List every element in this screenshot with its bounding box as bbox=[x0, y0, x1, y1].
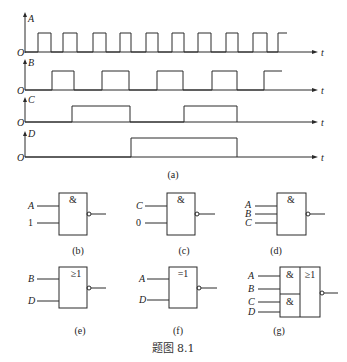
waveform-d bbox=[25, 138, 237, 157]
input-label: 1 bbox=[28, 217, 33, 228]
timing-row-c bbox=[23, 97, 318, 124]
input-label: B bbox=[248, 283, 254, 294]
inverter-bubble-icon bbox=[195, 212, 199, 216]
gate-g bbox=[258, 267, 338, 317]
input-label: A bbox=[138, 273, 146, 284]
origin-label: O bbox=[17, 117, 24, 128]
arrow-up-icon bbox=[23, 131, 27, 136]
timing-row-b bbox=[23, 59, 318, 92]
signal-label-d: D bbox=[27, 128, 36, 139]
time-label: t bbox=[321, 117, 324, 128]
input-label: A bbox=[247, 270, 255, 281]
inverter-bubble-icon bbox=[87, 212, 91, 216]
input-label: A bbox=[27, 200, 35, 211]
gate-symbol-or: ≥1 bbox=[305, 269, 316, 280]
input-label: 0 bbox=[136, 217, 141, 228]
inverter-bubble-icon bbox=[197, 286, 201, 290]
sublabel-d: (d) bbox=[270, 245, 282, 257]
time-label: t bbox=[321, 85, 324, 96]
gate-symbol: ≥1 bbox=[71, 268, 82, 279]
sublabel-e: (e) bbox=[74, 325, 85, 337]
arrow-right-icon bbox=[312, 50, 318, 54]
time-label: t bbox=[321, 47, 324, 58]
gate-symbol: =1 bbox=[178, 268, 189, 279]
inverter-bubble-icon bbox=[87, 286, 91, 290]
time-label: t bbox=[321, 152, 324, 163]
arrow-right-icon bbox=[312, 88, 318, 92]
arrow-up-icon bbox=[23, 12, 27, 17]
origin-label: O bbox=[17, 152, 24, 163]
input-label: B bbox=[28, 273, 34, 284]
waveform-b bbox=[25, 71, 282, 90]
inverter-bubble-icon bbox=[320, 291, 324, 295]
input-label: D bbox=[138, 294, 147, 305]
sublabel-c: (c) bbox=[178, 245, 189, 257]
gate-symbol: & bbox=[287, 194, 295, 205]
signal-label-a: A bbox=[27, 13, 35, 24]
origin-label: O bbox=[17, 47, 24, 58]
signal-label-c: C bbox=[28, 94, 35, 105]
waveform-a bbox=[25, 33, 287, 52]
arrow-up-icon bbox=[23, 97, 27, 102]
input-label: C bbox=[136, 200, 143, 211]
sublabel-a: (a) bbox=[167, 169, 178, 181]
gate-symbol-and-bottom: & bbox=[286, 296, 294, 307]
input-label: D bbox=[27, 295, 36, 306]
sublabel-g: (g) bbox=[273, 325, 285, 337]
input-label: D bbox=[247, 306, 256, 317]
arrow-right-icon bbox=[312, 155, 318, 159]
arrow-up-icon bbox=[23, 59, 27, 64]
sublabel-f: (f) bbox=[173, 325, 183, 337]
sublabel-b: (b) bbox=[72, 245, 84, 257]
gate-symbol: & bbox=[69, 194, 77, 205]
arrow-right-icon bbox=[312, 120, 318, 124]
timing-row-d bbox=[23, 131, 318, 159]
inverter-bubble-icon bbox=[306, 212, 310, 216]
figure-caption: 题图 8.1 bbox=[152, 342, 195, 355]
origin-label: O bbox=[17, 85, 24, 96]
input-label: C bbox=[245, 217, 252, 228]
signal-label-b: B bbox=[28, 57, 34, 68]
waveform-c bbox=[25, 106, 237, 122]
timing-row-a bbox=[23, 12, 318, 54]
gate-symbol: & bbox=[177, 194, 185, 205]
gate-symbol-and-top: & bbox=[286, 269, 294, 280]
figure-canvas: A O t B O t C O t D O t (a) & A 1 (b) & … bbox=[0, 0, 347, 362]
